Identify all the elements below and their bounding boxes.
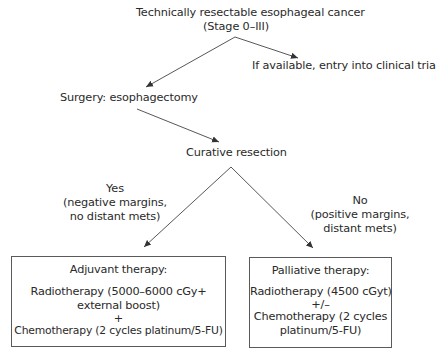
no-label: No [305, 194, 415, 208]
root-title: Technically resectable esophageal cancer [136, 6, 336, 20]
palliative-therapy-box: Palliative therapy: Radiotherapy (4500 c… [249, 257, 392, 348]
adjuvant-therapy-box: Adjuvant therapy: Radiotherapy (5000–600… [11, 256, 226, 347]
yes-detail-2: no distant mets) [60, 210, 170, 224]
yes-label: Yes [60, 182, 170, 196]
clinical-trial-node: If available, entry into clinical trial [252, 59, 432, 73]
arrow-root-to-trial [235, 37, 298, 58]
palliative-chemotherapy: Chemotherapy (2 cycles [250, 310, 391, 324]
adjuvant-title: Adjuvant therapy: [12, 263, 225, 277]
no-detail-2: distant mets) [305, 222, 415, 236]
adjuvant-radiotherapy: Radiotherapy (5000–6000 cGy+ [12, 285, 225, 299]
arrow-surgery-to-curative [137, 109, 219, 142]
arrow-curative-to-palliative [231, 167, 313, 248]
adjuvant-chemotherapy: Chemotherapy (2 cycles platinum/5-FU) [12, 324, 225, 338]
palliative-plus-minus: +/– [250, 299, 391, 310]
surgery-node: Surgery: esophagectomy [60, 91, 200, 105]
palliative-radiotherapy: Radiotherapy (4500 cGyt) [250, 285, 391, 299]
yes-detail-1: (negative margins, [60, 196, 170, 210]
palliative-title: Palliative therapy: [250, 264, 391, 278]
curative-resection-node: Curative resection [186, 146, 286, 160]
adjuvant-plus: + [12, 313, 225, 324]
root-stage: (Stage 0–III) [136, 20, 336, 34]
adjuvant-radiotherapy-cont: external boost) [12, 299, 225, 313]
no-detail-1: (positive margins, [305, 208, 415, 222]
no-branch-label: No (positive margins, distant mets) [305, 194, 415, 236]
palliative-chemotherapy-cont: platinum/5-FU) [250, 324, 391, 338]
arrow-root-to-surgery [146, 37, 235, 87]
root-node: Technically resectable esophageal cancer… [136, 6, 336, 34]
yes-branch-label: Yes (negative margins, no distant mets) [60, 182, 170, 224]
